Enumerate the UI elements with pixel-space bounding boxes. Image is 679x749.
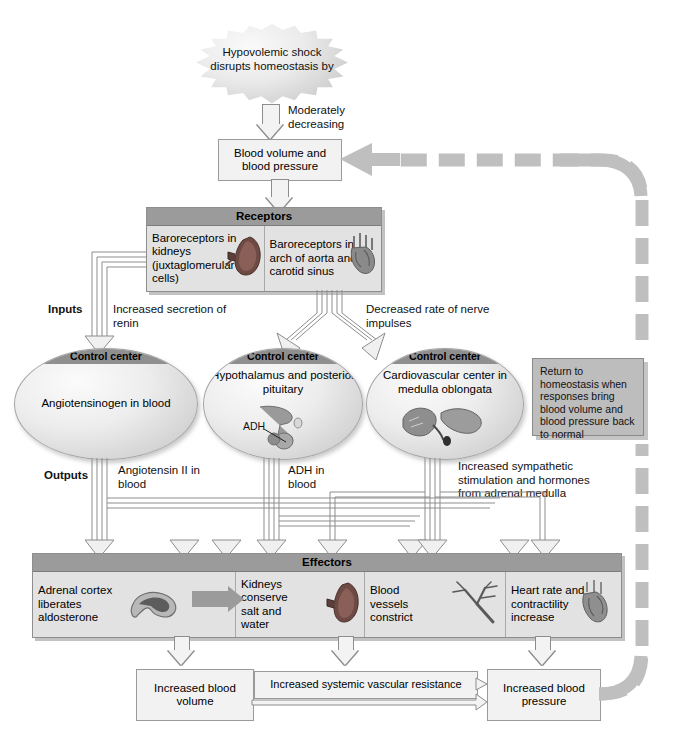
- diagram-canvas: Hypovolemic shock disrupts homeostasis b…: [0, 0, 679, 749]
- effector-cell-vessels: Blood vessels constrict: [364, 572, 505, 637]
- arrow-effectors-to-pressure-head: [529, 650, 555, 665]
- receptors-panel: Receptors Baroreceptors in kidneys (juxt…: [146, 207, 382, 292]
- receptor-cell-kidney: Baroreceptors in kidneys (juxtaglomerula…: [147, 226, 264, 291]
- output-signal-angiotensin: Angiotensin II in blood: [118, 464, 228, 491]
- arrow-effectors-to-volume-head: [168, 650, 194, 665]
- control-center-1-body: Angiotensinogen in blood: [15, 365, 197, 459]
- blood-vessel-illustration: [445, 580, 503, 626]
- return-to-homeostasis-box: Return to homeostasis when responses bri…: [532, 358, 644, 436]
- control-center-hypothalamus: Control center Hypothalamus and posterio…: [203, 348, 363, 460]
- input-signal-renin: Increased secretion of renin: [113, 303, 233, 330]
- result-box-blood-volume: Increased blood volume: [136, 669, 254, 721]
- adrenal-gland-illustration: [125, 586, 185, 626]
- control-center-angiotensinogen: Control center Angiotensinogen in blood: [14, 348, 198, 460]
- stimulus-effect-label: Moderately decreasing: [288, 104, 384, 131]
- effector-internal-arrow-head: [228, 586, 244, 612]
- kidney-illustration: [326, 580, 360, 626]
- inputs-label: Inputs: [48, 303, 83, 317]
- arrow-effectors-to-resistance-head: [332, 650, 358, 665]
- control-center-cardiovascular: Control center Cardiovascular center in …: [366, 348, 524, 460]
- effector-internal-arrow: [192, 591, 228, 607]
- effector-heart-label: Heart rate and contractility increase: [511, 584, 587, 625]
- output-signal-adh: ADH in blood: [288, 464, 348, 491]
- outputs-label: Outputs: [44, 469, 88, 483]
- arrow-stimulus-to-condition-head: [257, 124, 283, 139]
- effector-adrenal-label: Adrenal cortex liberates aldosterone: [38, 584, 130, 625]
- result-blood-volume-label: Increased blood volume: [137, 682, 253, 709]
- controlled-condition-box: Blood volume and blood pressure: [218, 139, 342, 181]
- effectors-header: Effectors: [33, 554, 621, 572]
- return-note-label: Return to homeostasis when responses bri…: [533, 359, 643, 446]
- input-signal-nerve: Decreased rate of nerve impulses: [366, 303, 496, 330]
- controlled-condition-label: Blood volume and blood pressure: [219, 147, 341, 174]
- adh-pointer-line: [264, 429, 290, 445]
- effector-cell-kidney: Kidneys conserve salt and water: [235, 572, 364, 637]
- control-center-2-header: Control center: [204, 349, 362, 364]
- output-signal-sympathetic: Increased sympathetic stimulation and ho…: [458, 460, 598, 501]
- heart-illustration: [577, 578, 615, 628]
- heart-aorta-illustration: [346, 230, 380, 282]
- result-box-blood-pressure: Increased blood pressure: [487, 669, 601, 721]
- kidney-illustration: [226, 234, 262, 278]
- adh-label: ADH: [243, 420, 265, 434]
- control-center-1-header: Control center: [15, 349, 197, 364]
- receptor-cell-aorta: Baroreceptors in arch of aorta and carot…: [264, 226, 382, 291]
- brainstem-illustration: [397, 403, 489, 447]
- effector-cell-heart: Heart rate and contractility increase: [505, 572, 621, 637]
- stimulus-label: Hypovolemic shock disrupts homeostasis b…: [208, 46, 336, 73]
- control-center-3-header: Control center: [367, 349, 523, 364]
- result-blood-pressure-label: Increased blood pressure: [488, 682, 600, 709]
- result-box-vascular-resistance: Increased systemic vascular resistance: [254, 671, 478, 699]
- result-vascular-resistance-label: Increased systemic vascular resistance: [270, 678, 461, 692]
- effectors-panel: Effectors Adrenal cortex liberates aldos…: [32, 553, 622, 638]
- receptors-header: Receptors: [147, 208, 381, 226]
- effector-vessels-label: Blood vessels constrict: [370, 584, 426, 625]
- effector-kidney-label: Kidneys conserve salt and water: [241, 578, 297, 632]
